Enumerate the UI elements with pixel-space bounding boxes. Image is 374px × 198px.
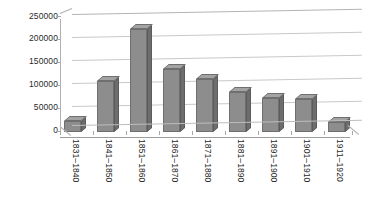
floor-front-edge — [60, 137, 350, 138]
y-axis-tick-label: 200000 — [0, 34, 58, 43]
x-axis-tick-label: 1841–1850 — [104, 139, 114, 182]
x-axis-tick-label: 1881–1890 — [236, 139, 246, 182]
x-axis-tick-mark — [192, 131, 193, 135]
bar-side-face — [180, 65, 185, 132]
x-axis-tick-mark — [352, 131, 353, 135]
x-axis-tick-label: 1901–1910 — [302, 139, 312, 182]
x-axis-tick-mark — [258, 131, 259, 135]
x-axis-tick-mark — [291, 131, 292, 135]
plot-area — [60, 14, 362, 132]
x-axis-tick-mark — [159, 131, 160, 135]
x-axis-tick-mark — [225, 131, 226, 135]
bar-chart: 250000 200000 150000 100000 50000 0 — [0, 0, 374, 198]
y-axis-tick-label: 100000 — [0, 80, 58, 89]
x-axis-label-group: 1851–1860 — [135, 139, 149, 195]
x-axis-tick-mark — [60, 131, 61, 135]
x-axis-label-group: 1831–1840 — [69, 139, 83, 195]
bar-front-face — [130, 29, 147, 132]
x-axis-tick-mark — [126, 131, 127, 135]
floor-right-edge — [348, 125, 359, 135]
x-axis-label-group: 1861–1870 — [168, 139, 182, 195]
x-axis-tick-mark — [93, 131, 94, 135]
x-axis-tick-label: 1861–1870 — [170, 139, 180, 182]
y-axis-tick-label: 150000 — [0, 57, 58, 66]
x-axis-label-group: 1871–1880 — [201, 139, 215, 195]
x-axis-label-group: 1911–1920 — [333, 139, 347, 195]
x-axis-tick-label: 1851–1860 — [137, 139, 147, 182]
x-axis-tick-mark — [324, 131, 325, 135]
x-axis-label-group: 1901–1910 — [300, 139, 314, 195]
gridline-150000 — [72, 55, 362, 61]
y-axis-tick-label: 50000 — [0, 103, 58, 112]
x-axis-label-group: 1881–1890 — [234, 139, 248, 195]
x-axis-label-group: 1841–1850 — [102, 139, 116, 195]
floor-left-edge — [60, 126, 71, 136]
gridline-200000 — [72, 32, 362, 38]
x-axis-label-group: 1891–1900 — [267, 139, 281, 195]
x-axis-tick-label: 1911–1920 — [335, 139, 345, 182]
bar-side-face — [147, 25, 152, 132]
bar-1851-1860 — [130, 29, 147, 132]
x-axis-tick-label: 1831–1840 — [71, 139, 81, 182]
x-axis-tick-label: 1871–1880 — [203, 139, 213, 182]
gridline-250000 — [72, 9, 362, 15]
x-axis-tick-label: 1891–1900 — [269, 139, 279, 182]
y-axis-tick-label: 250000 — [0, 12, 58, 21]
y-axis-tick-label: 0 — [0, 126, 58, 135]
bar-side-face — [213, 75, 218, 132]
